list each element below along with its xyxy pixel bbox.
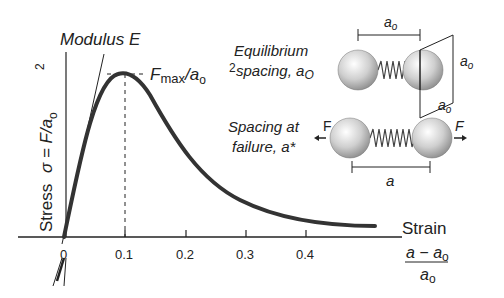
strain-label: Strain bbox=[402, 219, 446, 238]
axis-break-icon bbox=[53, 258, 66, 286]
svg-text:ao: ao bbox=[460, 53, 474, 71]
stress-strain-curve bbox=[64, 73, 375, 237]
svg-text:Equilibrium: Equilibrium bbox=[234, 42, 308, 59]
svg-text:failure, a*: failure, a* bbox=[232, 138, 297, 155]
svg-text:a − ao: a − ao bbox=[406, 244, 449, 264]
svg-text:Stress σ = F/ao: Stress σ = F/ao bbox=[37, 112, 60, 232]
svg-text:ao: ao bbox=[420, 266, 436, 286]
x-ticks bbox=[125, 230, 306, 237]
svg-text:ao: ao bbox=[438, 97, 452, 115]
modulus-label: Modulus E bbox=[60, 30, 141, 49]
svg-text:0: 0 bbox=[60, 247, 67, 262]
svg-text:0.3: 0.3 bbox=[236, 247, 254, 262]
atom-icon bbox=[330, 118, 370, 158]
svg-text:2: 2 bbox=[33, 63, 47, 70]
svg-text:Fmax/ao: Fmax/ao bbox=[150, 65, 206, 87]
svg-text:F: F bbox=[455, 118, 465, 134]
atom-icon bbox=[412, 118, 452, 158]
svg-text:ao: ao bbox=[384, 14, 398, 32]
svg-text:0.1: 0.1 bbox=[115, 247, 133, 262]
svg-text:a: a bbox=[386, 172, 394, 189]
svg-text:spacing, aO: spacing, aO bbox=[236, 62, 314, 82]
x-tick-labels: 0 0.1 0.2 0.3 0.4 bbox=[60, 247, 314, 262]
spring-icon bbox=[370, 129, 415, 147]
svg-text:2: 2 bbox=[229, 61, 236, 75]
strain-fraction: a − ao ao bbox=[405, 244, 449, 286]
svg-text:0.4: 0.4 bbox=[296, 247, 314, 262]
equilibrium-diagram: Equilibrium spacing, aO ao ao ao bbox=[234, 14, 474, 118]
svg-text:F: F bbox=[323, 118, 332, 134]
y-axis-label: Stress σ = F/ao 2 bbox=[33, 63, 60, 232]
stress-strain-figure: Modulus E Fmax/ao 2 Stress σ = F/ao 2 0 … bbox=[0, 0, 504, 298]
failure-diagram: Spacing at failure, a* F F a bbox=[228, 118, 467, 189]
peak-label: Fmax/ao 2 bbox=[150, 61, 236, 87]
svg-text:0.2: 0.2 bbox=[176, 247, 194, 262]
atom-icon bbox=[403, 50, 443, 90]
svg-text:Spacing at: Spacing at bbox=[228, 118, 300, 135]
atom-icon bbox=[338, 50, 378, 90]
